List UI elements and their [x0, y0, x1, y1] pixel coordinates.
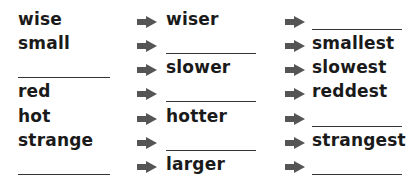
base-word: strange [18, 130, 93, 150]
right-arrow-icon [285, 110, 305, 122]
comparative-blank-line[interactable] [166, 150, 256, 151]
right-arrow-icon [137, 37, 157, 49]
base-word: small [18, 33, 70, 53]
base-blank-line[interactable] [18, 174, 110, 175]
right-arrow-icon [285, 134, 305, 146]
comparative-blank-line[interactable] [166, 53, 256, 54]
superlative-word: strangest [312, 130, 406, 150]
superlative-word: reddest [312, 81, 387, 101]
base-word: red [18, 81, 51, 101]
superlative-word: smallest [312, 33, 394, 53]
right-arrow-icon [285, 85, 305, 97]
base-word: hot [18, 106, 51, 126]
comparative-word: larger [166, 154, 225, 174]
superlative-blank-line[interactable] [312, 174, 402, 175]
right-arrow-icon [137, 134, 157, 146]
comparative-word: hotter [166, 106, 227, 126]
superlative-word: slowest [312, 57, 387, 77]
right-arrow-icon [285, 158, 305, 170]
right-arrow-icon [137, 61, 157, 73]
base-word: wise [18, 9, 62, 29]
right-arrow-icon [137, 110, 157, 122]
right-arrow-icon [285, 37, 305, 49]
right-arrow-icon [285, 13, 305, 25]
right-arrow-icon [137, 85, 157, 97]
comparative-blank-line[interactable] [166, 101, 256, 102]
comparative-word: wiser [166, 9, 219, 29]
superlative-blank-line[interactable] [312, 29, 402, 30]
right-arrow-icon [137, 13, 157, 25]
base-blank-line[interactable] [18, 77, 110, 78]
right-arrow-icon [285, 61, 305, 73]
right-arrow-icon [137, 158, 157, 170]
superlative-blank-line[interactable] [312, 126, 402, 127]
comparative-word: slower [166, 57, 230, 77]
